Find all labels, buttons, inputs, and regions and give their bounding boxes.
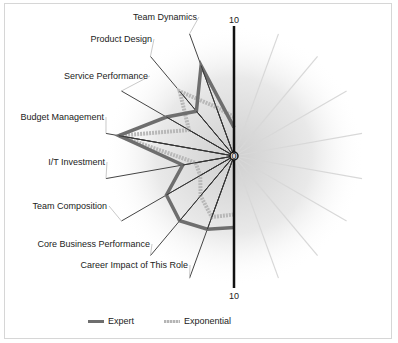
axis-bottom-label: 10 [229,291,239,301]
category-label: Team Dynamics [133,12,198,22]
category-label: Career Impact of This Role [81,260,188,270]
legend-item-expert[interactable]: Expert [88,316,134,326]
category-label: Team Composition [32,201,107,211]
category-label: I/T Investment [48,157,105,167]
legend: Expert Exponential [88,316,231,326]
legend-item-exponential[interactable]: Exponential [164,316,231,326]
axis-zero-label: 0 [231,151,236,161]
legend-expert-label: Expert [108,316,134,326]
exponential-swatch-icon [164,320,180,323]
radar-chart: 0 10 10 Team DynamicsProduct DesignServi… [0,0,398,343]
legend-exponential-label: Exponential [184,316,231,326]
expert-swatch-icon [88,320,104,323]
category-label: Service Performance [64,71,148,81]
category-label: Core Business Performance [37,239,150,249]
category-label: Product Design [90,34,152,44]
category-label: Budget Management [20,112,104,122]
axis-top-label: 10 [229,15,239,25]
